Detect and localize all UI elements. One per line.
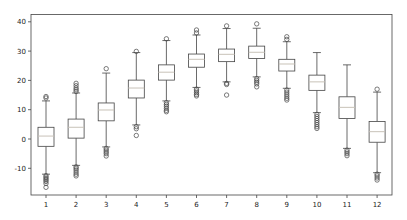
box-5 xyxy=(158,37,174,114)
outlier-marker xyxy=(255,85,259,89)
y-axis: -10010203040 xyxy=(15,18,31,173)
outlier-marker xyxy=(255,22,259,26)
x-tick-label: 1 xyxy=(44,201,48,209)
y-tick-label: 0 xyxy=(22,136,26,144)
x-tick-label: 2 xyxy=(74,201,78,209)
x-tick-label: 7 xyxy=(224,201,228,209)
box-iqr xyxy=(189,54,205,67)
box-11 xyxy=(339,65,355,158)
box-9 xyxy=(279,35,295,103)
x-tick-label: 9 xyxy=(285,201,289,209)
box-7 xyxy=(219,24,235,98)
outlier-marker xyxy=(224,93,228,97)
x-tick-label: 12 xyxy=(373,201,382,209)
box-iqr xyxy=(219,49,235,62)
x-tick-label: 3 xyxy=(104,201,108,209)
box-10 xyxy=(309,53,325,131)
x-tick-label: 5 xyxy=(164,201,168,209)
x-tick-label: 6 xyxy=(194,201,199,209)
outlier-marker xyxy=(224,24,228,28)
y-tick-label: 40 xyxy=(17,18,26,26)
x-tick-label: 8 xyxy=(254,201,258,209)
box-2 xyxy=(68,81,84,178)
x-axis: 123456789101112 xyxy=(44,195,382,209)
x-tick-label: 11 xyxy=(343,201,352,209)
box-8 xyxy=(249,22,265,89)
outlier-marker xyxy=(375,87,379,91)
x-tick-label: 4 xyxy=(134,201,139,209)
outlier-marker xyxy=(285,35,289,39)
plot-border xyxy=(31,15,392,196)
box-6 xyxy=(189,28,205,98)
box-series xyxy=(38,22,385,190)
outlier-marker xyxy=(104,66,108,70)
plot-frame xyxy=(31,15,392,196)
y-tick-label: 20 xyxy=(17,77,26,85)
y-tick-label: 10 xyxy=(17,106,26,114)
box-12 xyxy=(369,87,385,182)
box-4 xyxy=(128,49,144,137)
boxplot-chart: -10010203040 123456789101112 xyxy=(0,0,407,220)
box-iqr xyxy=(98,103,114,121)
y-tick-label: 30 xyxy=(17,48,26,56)
box-iqr xyxy=(68,119,84,138)
y-tick-label: -10 xyxy=(15,165,26,173)
box-3 xyxy=(98,66,114,158)
outlier-marker xyxy=(134,133,138,137)
box-1 xyxy=(38,94,54,189)
box-iqr xyxy=(128,80,144,98)
box-iqr xyxy=(279,59,295,71)
box-iqr xyxy=(309,75,325,90)
x-tick-label: 10 xyxy=(312,201,321,209)
outlier-marker xyxy=(194,28,198,32)
box-iqr xyxy=(38,127,54,146)
